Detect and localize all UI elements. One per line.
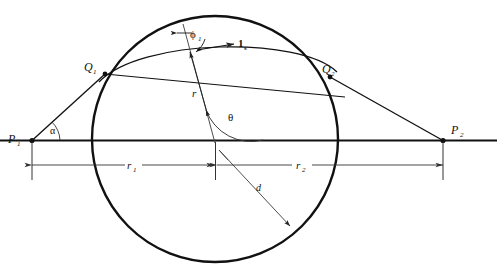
label-distance-base: d (256, 182, 262, 193)
label-phi1-sub: 1 (198, 35, 202, 43)
distance-arrow-d (219, 150, 290, 226)
label-q2-base: Q (322, 62, 331, 76)
label-p2: P 2 (450, 123, 464, 139)
point-marker-q1 (103, 72, 108, 77)
label-dim-r1-base: r (127, 159, 132, 171)
label-theta: θ (228, 111, 233, 123)
label-dim-r2-base: r (296, 159, 301, 171)
label-phi1-base: ϕ (190, 28, 196, 40)
label-q1: Q 1 (84, 60, 97, 76)
label-dim-r1: r 1 (127, 159, 137, 174)
label-p1: P 1 (7, 132, 21, 148)
label-unit-vector-s: 1 s (238, 37, 247, 52)
label-q1-base: Q (84, 60, 93, 74)
distance-line-d-stub (219, 150, 228, 160)
angle-theta-group (206, 110, 263, 142)
sight-line (32, 74, 443, 141)
label-radius-r: r (192, 87, 197, 99)
segment-p1-q1 (32, 74, 105, 141)
label-dim-r1-sub: 1 (133, 166, 137, 174)
label-q1-sub: 1 (93, 68, 97, 76)
geometry-diagram: P 1 P 2 Q 1 Q 2 α θ ϕ 1 (0, 0, 497, 274)
segment-q2-p2 (330, 77, 443, 141)
label-phi1: ϕ 1 (190, 28, 202, 43)
label-p2-base: P (450, 123, 459, 137)
label-unit-vector-base: 1 (238, 37, 244, 49)
label-p2-sub: 2 (460, 131, 464, 139)
label-alpha-base: α (50, 125, 56, 136)
distance-line-group (219, 150, 290, 226)
circle-outline (92, 16, 338, 262)
label-radius-base: r (192, 87, 197, 99)
label-distance-d: d (256, 182, 262, 193)
label-p1-sub: 1 (17, 140, 21, 148)
label-unit-vector-sub: s (244, 44, 247, 52)
label-dim-r2: r 2 (296, 159, 306, 174)
main-circle (92, 16, 338, 262)
label-p1-base: P (7, 132, 16, 146)
segment-q1-q2-extended (105, 74, 345, 97)
label-q2: Q 2 (322, 62, 335, 78)
angle-arc-theta (206, 110, 263, 142)
figure-canvas: P 1 P 2 Q 1 Q 2 α θ ϕ 1 (0, 0, 497, 274)
label-alpha: α (50, 125, 56, 136)
label-theta-base: θ (228, 111, 233, 123)
label-q2-sub: 2 (331, 70, 335, 78)
label-dim-r2-sub: 2 (302, 166, 306, 174)
